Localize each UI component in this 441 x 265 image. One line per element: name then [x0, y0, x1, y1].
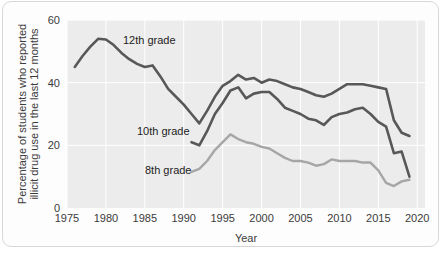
y-axis-title-line-2: illicit drug use in the last 12 months [28, 28, 40, 200]
series-label-10th-grade: 10th grade [137, 125, 190, 137]
x-tick-label: 2010 [327, 212, 351, 224]
x-tick-label: 2015 [366, 212, 390, 224]
x-axis-tick-labels: 1975198019851990199520002005201020152020 [55, 212, 430, 224]
figure-card: 0204060 19751980198519901995200020052010… [2, 1, 439, 247]
x-tick-label: 2000 [249, 212, 273, 224]
y-tick-label: 60 [48, 14, 60, 26]
x-tick-label: 2020 [405, 212, 429, 224]
x-tick-label: 1990 [171, 212, 195, 224]
line-chart: 0204060 19751980198519901995200020052010… [3, 2, 439, 247]
x-tick-label: 1975 [55, 212, 79, 224]
x-tick-label: 1995 [210, 212, 234, 224]
y-tick-label: 40 [48, 77, 60, 89]
y-axis-tick-labels: 0204060 [48, 14, 60, 214]
y-axis-title-line-1: Percentage of students who reported [16, 24, 28, 204]
y-tick-label: 20 [48, 139, 60, 151]
x-tick-label: 1985 [133, 212, 157, 224]
series-label-8th-grade: 8th grade [145, 164, 191, 176]
series-label-12th-grade: 12th grade [123, 34, 176, 46]
x-tick-label: 1980 [94, 212, 118, 224]
x-axis-title: Year [235, 232, 258, 244]
x-tick-label: 2005 [288, 212, 312, 224]
